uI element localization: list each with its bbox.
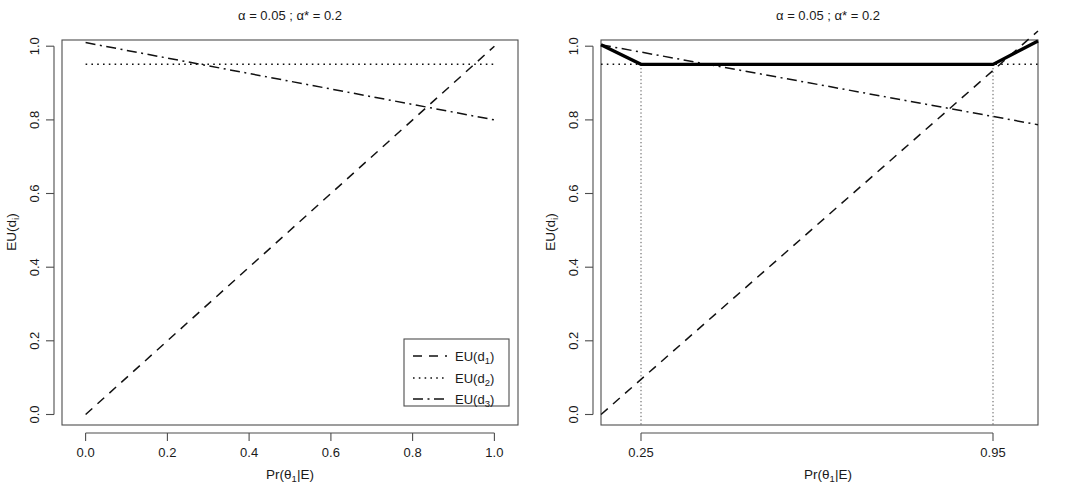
left-x-tick-4: 0.8: [404, 445, 422, 460]
right-y-tick-2: 0.4: [566, 258, 581, 276]
right-x-tick-1: 0.95: [980, 445, 1005, 460]
left-x-tick-5: 1.0: [485, 445, 503, 460]
right-y-tick-3: 0.6: [566, 184, 581, 202]
right-x-axis-title: Pr(θ1|E): [804, 467, 852, 484]
left-x-tick-2: 0.4: [240, 445, 258, 460]
left-y-axis: 0.0 0.2 0.4 0.6 0.8 1.0: [27, 37, 54, 423]
series-eu-d3-right: [601, 45, 1038, 125]
left-y-tick-4: 0.8: [27, 111, 42, 129]
right-y-axis-title: EU(di): [543, 213, 560, 250]
right-y-axis: 0.0 0.2 0.4 0.6 0.8 1.0: [566, 37, 593, 423]
left-panel-title: α = 0.05 ; α* = 0.2: [238, 8, 342, 23]
right-plot-frame: [601, 40, 1038, 425]
left-x-tick-1: 0.2: [158, 445, 176, 460]
figure-root: α = 0.05 ; α* = 0.2 0.0 0.2 0.4 0.6 0.8 …: [0, 0, 1066, 484]
left-x-tick-3: 0.6: [322, 445, 340, 460]
right-chart-svg: α = 0.05 ; α* = 0.2 0.0 0.2 0.4 0.6 0.8 …: [533, 0, 1066, 484]
left-y-tick-0: 0.0: [27, 405, 42, 423]
right-x-axis: 0.25 0.95: [628, 433, 1005, 460]
left-y-tick-1: 0.2: [27, 332, 42, 350]
legend[interactable]: EU(d1) EU(d2) EU(d3): [404, 339, 509, 409]
right-y-tick-5: 1.0: [566, 37, 581, 55]
left-chart-panel: α = 0.05 ; α* = 0.2 0.0 0.2 0.4 0.6 0.8 …: [0, 0, 533, 484]
series-envelope-right: [601, 41, 1038, 64]
left-y-tick-5: 1.0: [27, 37, 42, 55]
series-eu-d3-left: [86, 43, 495, 120]
left-x-tick-0: 0.0: [77, 445, 95, 460]
left-y-axis-title: EU(di): [4, 213, 21, 250]
right-y-tick-1: 0.2: [566, 332, 581, 350]
right-x-tick-0: 0.25: [628, 445, 653, 460]
right-chart-panel: α = 0.05 ; α* = 0.2 0.0 0.2 0.4 0.6 0.8 …: [533, 0, 1066, 484]
left-y-tick-2: 0.4: [27, 258, 42, 276]
left-chart-svg: α = 0.05 ; α* = 0.2 0.0 0.2 0.4 0.6 0.8 …: [0, 0, 533, 484]
right-y-tick-4: 0.8: [566, 111, 581, 129]
left-x-axis-title: Pr(θ1|E): [266, 467, 314, 484]
left-y-tick-3: 0.6: [27, 184, 42, 202]
right-guides-group: [641, 64, 993, 425]
left-x-axis: 0.0 0.2 0.4 0.6 0.8 1.0: [77, 433, 504, 460]
right-panel-title: α = 0.05 ; α* = 0.2: [776, 8, 880, 23]
series-eu-d1-right: [601, 31, 1038, 415]
right-series-group: [601, 31, 1038, 415]
right-y-tick-0: 0.0: [566, 405, 581, 423]
